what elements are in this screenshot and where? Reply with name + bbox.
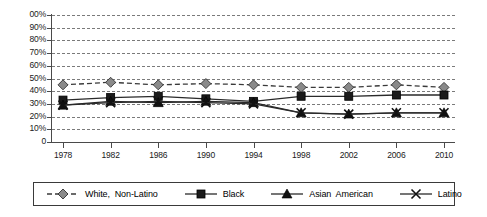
legend-label: Asian American	[309, 189, 373, 199]
data-point	[249, 80, 259, 90]
data-point	[153, 80, 163, 90]
data-point	[345, 92, 353, 100]
series-white-non-latino	[58, 77, 449, 92]
data-point	[440, 91, 448, 99]
data-point	[344, 82, 354, 92]
data-point	[296, 82, 306, 92]
series-asian-american	[58, 96, 449, 118]
diamond-icon	[46, 188, 80, 200]
triangle-icon	[270, 188, 304, 200]
legend-item: White, Non-Latino	[46, 188, 158, 200]
legend-label: Latino	[438, 189, 462, 199]
legend-item: Latino	[399, 188, 462, 200]
data-point	[106, 77, 116, 87]
x-icon	[399, 188, 433, 200]
legend-label: Black	[223, 189, 245, 199]
legend-item: Black	[184, 188, 245, 200]
chart-legend: White, Non-LatinoBlackAsian AmericanLati…	[33, 182, 455, 206]
data-point	[391, 80, 401, 90]
data-point	[297, 92, 305, 100]
legend-label: White, Non-Latino	[85, 189, 158, 199]
data-point	[201, 79, 211, 89]
square-icon	[184, 188, 218, 200]
chart-figure: 00%90%80%70%60%50%40%30%20%10%0 19781982…	[0, 0, 487, 217]
legend-item: Asian American	[270, 188, 373, 200]
data-point	[392, 91, 400, 99]
data-point	[58, 80, 68, 90]
